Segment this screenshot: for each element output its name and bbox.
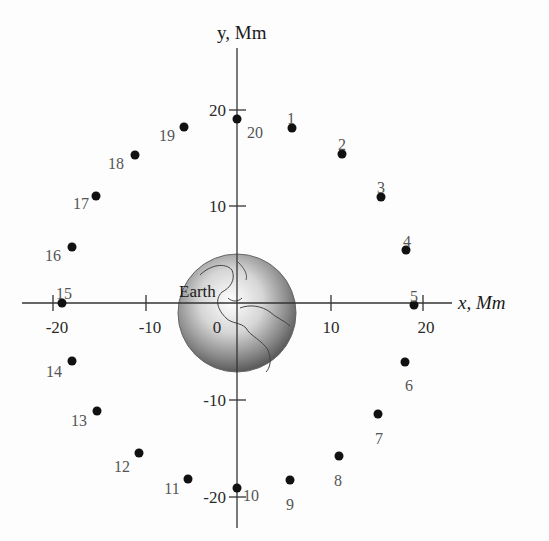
y-tick-label: 20 (209, 101, 226, 120)
x-tick-label: 10 (323, 318, 340, 337)
point-label: 7 (375, 430, 383, 447)
data-point (335, 452, 344, 461)
y-axis-title: y, Mm (217, 22, 267, 43)
data-point (374, 410, 383, 419)
x-tick-label: 20 (418, 318, 435, 337)
point-label: 5 (410, 288, 418, 305)
point-label: 3 (377, 179, 385, 196)
point-label: 18 (108, 155, 124, 172)
x-tick-label: -20 (46, 318, 69, 337)
data-point (135, 449, 144, 458)
y-tick-label: -20 (203, 488, 226, 507)
point-label: 19 (159, 127, 175, 144)
data-point (184, 475, 193, 484)
data-point (68, 243, 77, 252)
point-label: 4 (403, 233, 411, 250)
data-point (401, 358, 410, 367)
data-point (68, 357, 77, 366)
data-point (233, 115, 242, 124)
point-label: 12 (114, 458, 130, 475)
point-label: 2 (338, 136, 346, 153)
point-label: 15 (56, 285, 72, 302)
data-point (180, 123, 189, 132)
point-label: 11 (164, 480, 179, 497)
point-label: 14 (46, 363, 62, 380)
point-label: 1 (287, 110, 295, 127)
y-tick-label: -10 (203, 391, 226, 410)
data-point (131, 151, 140, 160)
x-tick-label: 0 (213, 318, 222, 337)
point-label: 20 (247, 124, 263, 141)
data-point (92, 192, 101, 201)
x-tick-label: -10 (139, 318, 162, 337)
earth-label: Earth (179, 282, 216, 301)
y-tick-label: 10 (209, 197, 226, 216)
point-label: 17 (73, 195, 89, 212)
point-label: 16 (45, 247, 61, 264)
data-point (286, 476, 295, 485)
x-axis-title: x, Mm (457, 292, 505, 313)
point-label: 13 (71, 412, 87, 429)
orbit-diagram: -20 -10 0 10 20 20 10 -10 -20 x, Mm y, M… (0, 0, 549, 541)
point-label: 9 (286, 496, 294, 513)
data-point (93, 407, 102, 416)
point-label: 10 (243, 487, 259, 504)
point-label: 8 (334, 472, 342, 489)
point-label: 6 (405, 377, 413, 394)
data-point (233, 484, 242, 493)
